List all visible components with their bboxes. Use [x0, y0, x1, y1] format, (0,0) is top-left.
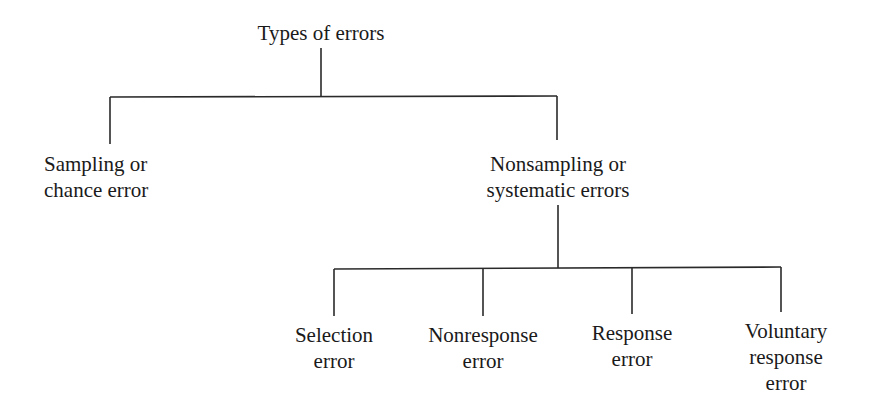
node-label-line: error [716, 370, 856, 396]
node-label-line: error [562, 346, 702, 372]
node-label-line: systematic errors [458, 177, 658, 203]
node-label-line: chance error [44, 177, 204, 203]
node-label-line: Voluntary [716, 318, 856, 344]
node-label-line: Nonresponse [408, 322, 558, 348]
node-nonresponse-error: Nonresponse error [408, 322, 558, 374]
node-label-line: error [408, 348, 558, 374]
level1-bar [110, 96, 557, 97]
node-voluntary-response-error: Voluntary response error [716, 318, 856, 396]
node-label-line: Sampling or [44, 151, 204, 177]
level2-bar [334, 267, 781, 269]
node-label-line: response [716, 344, 856, 370]
node-types-of-errors: Types of errors [221, 20, 421, 46]
node-response-error: Response error [562, 320, 702, 372]
node-label-line: Types of errors [221, 20, 421, 46]
node-label-line: Selection [264, 322, 404, 348]
node-nonsampling-errors: Nonsampling or systematic errors [458, 151, 658, 203]
node-label-line: error [264, 348, 404, 374]
node-selection-error: Selection error [264, 322, 404, 374]
node-sampling-error: Sampling or chance error [44, 151, 204, 203]
node-label-line: Nonsampling or [458, 151, 658, 177]
node-label-line: Response [562, 320, 702, 346]
